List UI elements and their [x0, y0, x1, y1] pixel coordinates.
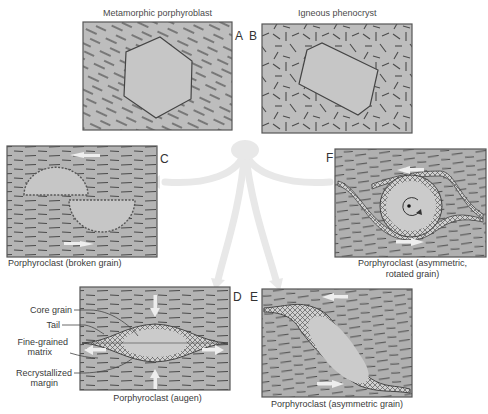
panel-d-letter: D — [233, 290, 242, 304]
panel-b-title: Igneous phenocryst — [298, 8, 377, 18]
panel-d-caption: Porphyroclast (augen) — [95, 393, 220, 403]
panel-b-letter: B — [249, 29, 257, 43]
panel-c-graphic — [7, 146, 157, 257]
label-recrystallized-1: Recrystallized — [0, 368, 72, 378]
panel-f-caption-line1: Porphyroclast (asymmetric, — [345, 258, 480, 268]
panel-c-caption: Porphyroclast (broken grain) — [8, 258, 122, 268]
panel-a-title: Metamorphic porphyroblast — [103, 8, 212, 18]
panel-d-graphic — [62, 287, 230, 390]
label-fine-grained-1: Fine-grained — [0, 337, 68, 347]
panel-e-caption: Porphyroclast (asymmetric grain) — [262, 399, 412, 409]
panel-c-letter: C — [160, 152, 169, 166]
label-fine-grained-2: matrix — [0, 347, 52, 357]
panel-a-letter: A — [235, 29, 243, 43]
label-recrystallized-2: margin — [0, 378, 58, 388]
panel-a-graphic — [83, 22, 232, 130]
panel-f-letter: F — [326, 151, 333, 165]
panel-e-letter: E — [250, 290, 258, 304]
panel-f-caption-line2: rotated grain) — [345, 269, 480, 279]
panel-e-graphic — [262, 289, 412, 397]
panel-b-graphic — [262, 24, 412, 133]
diagram-canvas — [0, 0, 488, 414]
panel-f-graphic — [335, 149, 486, 257]
transition-arrows — [165, 140, 330, 280]
label-tail: Tail — [0, 320, 60, 330]
label-core-grain: Core grain — [0, 305, 72, 315]
